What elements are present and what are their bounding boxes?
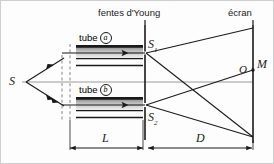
beam-s2-upper	[146, 70, 253, 105]
point-m-label: M	[257, 57, 267, 72]
figure-canvas: fentes d'Young écran S S1 S2 O M tube a …	[0, 0, 274, 164]
tube-a-word: tube	[79, 32, 98, 43]
tube-a-group	[62, 46, 145, 65]
source-ray-upper	[26, 58, 64, 82]
point-o-label: O	[239, 63, 247, 75]
tube-b-mark: b	[100, 84, 112, 96]
slits-title-label: fentes d'Young	[98, 7, 160, 18]
point-m-marker	[251, 68, 254, 71]
optics-diagram-svg	[0, 0, 274, 164]
tube-b-label: tube b	[79, 83, 112, 95]
beam-s1-lower	[146, 53, 253, 137]
slit-s1-subscript: 1	[154, 46, 158, 54]
tube-b-word: tube	[79, 84, 98, 95]
tube-b-group	[62, 98, 145, 117]
tube-a-label: tube a	[79, 31, 112, 43]
source-ray-lower-arrowhead-2	[51, 97, 59, 103]
source-ray-upper-arrowhead	[46, 64, 54, 70]
screen-title-label: écran	[228, 7, 252, 18]
slit-s2-subscript: 2	[154, 119, 158, 127]
slit-s2-label: S2	[148, 107, 158, 127]
beam-s1-upper	[146, 28, 253, 53]
slit-s1-label: S1	[148, 34, 158, 54]
dimension-D-label: D	[196, 131, 205, 146]
source-label: S	[9, 74, 15, 89]
tube-a-mark: a	[100, 32, 112, 44]
dimension-L-label: L	[102, 131, 109, 146]
